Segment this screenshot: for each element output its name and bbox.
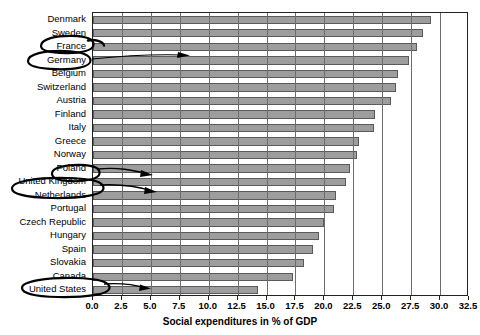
x-axis-ticks: 0.02.55.07.510.012.515.017.520.022.525.0… xyxy=(92,296,468,312)
y-axis-label-austria: Austria xyxy=(56,93,86,107)
bar xyxy=(93,273,293,281)
gridline xyxy=(209,13,210,295)
gridline xyxy=(180,13,181,295)
bar xyxy=(93,205,334,213)
y-axis-label-slovakia: Slovakia xyxy=(50,255,86,269)
bar xyxy=(93,16,431,24)
bar xyxy=(93,178,346,186)
y-axis-label-united-states: United States xyxy=(29,282,86,296)
bar xyxy=(93,259,304,267)
bar xyxy=(93,151,357,159)
gridline xyxy=(295,13,296,295)
y-axis-label-spain: Spain xyxy=(62,242,86,256)
chart-screenshot: DenmarkSwedenFranceGermanyBelgiumSwitzer… xyxy=(0,0,480,335)
bar xyxy=(93,232,319,240)
gridline xyxy=(122,13,123,295)
bar xyxy=(93,137,359,145)
y-axis-label-hungary: Hungary xyxy=(50,228,86,242)
x-tick-label: 5.0 xyxy=(143,300,156,311)
y-axis-label-norway: Norway xyxy=(54,147,86,161)
y-axis-label-italy: Italy xyxy=(69,120,86,134)
bar xyxy=(93,110,375,118)
x-tick-label: 17.5 xyxy=(285,300,304,311)
gridline xyxy=(411,13,412,295)
x-tick-label: 32.5 xyxy=(459,300,478,311)
y-axis-label-canada: Canada xyxy=(53,269,86,283)
x-tick-label: 25.0 xyxy=(372,300,391,311)
plot-area xyxy=(92,12,468,296)
x-tick-label: 0.0 xyxy=(85,300,98,311)
bar xyxy=(93,43,417,51)
gridline xyxy=(440,13,441,295)
y-axis-label-czech-republic: Czech Republic xyxy=(19,215,86,229)
x-tick-label: 30.0 xyxy=(430,300,449,311)
y-axis-labels: DenmarkSwedenFranceGermanyBelgiumSwitzer… xyxy=(0,12,90,296)
x-tick-label: 27.5 xyxy=(401,300,420,311)
bar xyxy=(93,56,409,64)
bar xyxy=(93,164,350,172)
gridline xyxy=(151,13,152,295)
gridline xyxy=(238,13,239,295)
y-axis-label-poland: Poland xyxy=(56,161,86,175)
bar xyxy=(93,83,396,91)
bar xyxy=(93,286,258,294)
y-axis-label-netherlands: Netherlands xyxy=(35,188,86,202)
y-axis-label-portugal: Portugal xyxy=(51,201,86,215)
x-tick-label: 10.0 xyxy=(198,300,217,311)
bar xyxy=(93,29,423,37)
y-axis-label-germany: Germany xyxy=(47,53,86,67)
gridline xyxy=(267,13,268,295)
bar xyxy=(93,191,336,199)
gridline xyxy=(382,13,383,295)
x-axis-title: Social expenditures in % of GDP xyxy=(0,316,480,327)
x-tick-label: 12.5 xyxy=(227,300,246,311)
gridline xyxy=(324,13,325,295)
x-tick-label: 7.5 xyxy=(172,300,185,311)
y-axis-label-finland: Finland xyxy=(55,107,86,121)
x-tick-label: 2.5 xyxy=(114,300,127,311)
y-axis-label-switzerland: Switzerland xyxy=(37,80,86,94)
y-axis-label-france: France xyxy=(56,39,86,53)
y-axis-label-denmark: Denmark xyxy=(47,12,86,26)
y-axis-label-greece: Greece xyxy=(55,134,86,148)
x-tick-label: 22.5 xyxy=(343,300,362,311)
x-tick-label: 20.0 xyxy=(314,300,333,311)
gridline xyxy=(353,13,354,295)
y-axis-label-united-kingdom: United Kingdom xyxy=(18,174,86,188)
bar xyxy=(93,245,313,253)
y-axis-label-belgium: Belgium xyxy=(52,66,86,80)
x-tick-label: 15.0 xyxy=(256,300,275,311)
bar xyxy=(93,97,391,105)
bar xyxy=(93,124,374,132)
y-axis-label-sweden: Sweden xyxy=(52,26,86,40)
